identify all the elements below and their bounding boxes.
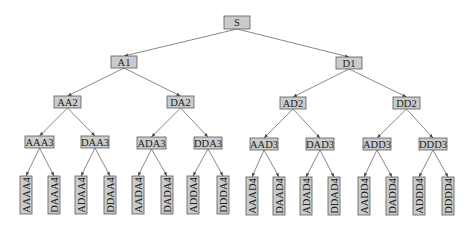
tree-node-s: S [224, 16, 250, 29]
arrowhead-icon [252, 173, 255, 177]
tree-node-dd2: DD2 [393, 97, 420, 109]
edge-aaa3-daaa4 [40, 148, 55, 176]
node-label: ADDA4 [188, 176, 199, 212]
tree-node-da2: DA2 [167, 96, 194, 108]
tree-node-aad3: AAD3 [250, 138, 278, 150]
node-label: DD2 [396, 98, 416, 109]
edge-s-d1 [237, 29, 349, 57]
tree-node-dad3: DAD3 [306, 138, 334, 150]
node-label: DAD3 [306, 139, 334, 150]
arrowhead-icon [389, 173, 392, 177]
tree-node-dda3: DDA3 [194, 137, 222, 149]
edge-dad3-adad4 [306, 150, 320, 177]
tree-node-add3: ADD3 [363, 138, 391, 150]
node-label: AADD4 [359, 177, 370, 213]
tree-node-ddad4: DDAD4 [328, 177, 340, 215]
tree-node-aadd4: AADD4 [358, 177, 370, 215]
node-label: DDAA4 [105, 176, 116, 212]
edge-add3-dadd4 [377, 150, 392, 177]
node-label: AA2 [57, 97, 77, 108]
tree-edges [26, 29, 448, 177]
arrowhead-icon [220, 172, 223, 176]
tree-node-ddaa4: DDAA4 [104, 176, 116, 214]
node-label: DADD4 [387, 177, 398, 213]
node-label: DDDD4 [443, 177, 454, 213]
edge-ad2-aad3 [264, 109, 293, 138]
tree-node-aa2: AA2 [54, 96, 81, 108]
arrowhead-icon [107, 172, 110, 176]
arrowhead-icon [193, 172, 196, 176]
tree-node-addd4: ADDD4 [413, 177, 425, 215]
arrowhead-icon [445, 173, 448, 177]
edge-daa3-adaa4 [81, 148, 95, 176]
tree-node-adaa4: ADAA4 [75, 176, 87, 214]
node-label: AADA4 [133, 176, 144, 212]
arrowhead-icon [164, 172, 167, 176]
edge-s-a1 [124, 29, 237, 56]
edge-ddd3-dddd4 [433, 150, 448, 177]
tree-node-dddd4: DDDD4 [442, 177, 454, 215]
edge-d1-ad2 [293, 69, 349, 97]
tree-node-aada4: AADA4 [132, 176, 144, 214]
tree-diagram: SA1D1AA2DA2AD2DD2AAA3DAA3ADA3DDA3AAD3DAD… [0, 0, 468, 236]
edge-dda3-ddda4 [208, 149, 223, 176]
node-label: AAAA4 [21, 176, 32, 212]
tree-node-ddda4: DDDA4 [217, 176, 229, 214]
arrowhead-icon [26, 172, 29, 176]
node-label: ADAA4 [76, 176, 87, 212]
edge-ada3-dada4 [152, 149, 168, 176]
node-label: DAAD4 [274, 177, 285, 213]
edge-a1-aa2 [68, 68, 125, 96]
node-label: AAA3 [26, 137, 54, 148]
tree-node-daaa4: DAAA4 [48, 176, 60, 214]
arrowhead-icon [419, 173, 422, 177]
tree-node-aaaa4: AAAA4 [20, 176, 32, 214]
arrowhead-icon [364, 173, 367, 177]
node-label: AD2 [283, 98, 303, 109]
node-label: A1 [118, 57, 131, 68]
edge-aa2-daa3 [68, 108, 96, 136]
edge-ddd3-addd4 [419, 150, 433, 177]
tree-node-ada3: ADA3 [137, 137, 166, 149]
tree-node-aaad4: AAAD4 [246, 177, 258, 215]
arrowhead-icon [306, 173, 309, 177]
node-label: ADDD4 [414, 177, 425, 213]
tree-node-dada4: DADA4 [161, 176, 173, 214]
edge-dda3-adda4 [193, 149, 208, 176]
node-label: DDA3 [194, 138, 222, 149]
node-label: S [234, 17, 240, 28]
edge-ada3-aada4 [138, 149, 152, 176]
node-label: DA2 [170, 97, 190, 108]
node-label: DDAD4 [329, 177, 340, 213]
tree-nodes: SA1D1AA2DA2AD2DD2AAA3DAA3ADA3DDA3AAD3DAD… [20, 16, 454, 215]
node-label: ADAD4 [301, 177, 312, 213]
tree-node-ddd3: DDD3 [419, 138, 447, 150]
tree-node-adda4: ADDA4 [187, 176, 199, 214]
arrowhead-icon [51, 172, 54, 176]
edge-dd2-ddd3 [407, 109, 434, 138]
edge-aad3-aaad4 [252, 150, 264, 177]
tree-node-d1: D1 [336, 57, 362, 69]
node-label: AAAD4 [247, 177, 258, 213]
tree-node-aaa3: AAA3 [25, 136, 54, 148]
edge-aa2-aaa3 [40, 108, 68, 136]
arrowhead-icon [81, 172, 84, 176]
edge-dad3-ddad4 [320, 150, 334, 177]
tree-node-ad2: AD2 [280, 97, 306, 109]
tree-node-daad4: DAAD4 [273, 177, 285, 215]
arrowhead-icon [138, 172, 141, 176]
tree-node-daa3: DAA3 [81, 136, 109, 148]
tree-node-a1: A1 [111, 56, 137, 68]
node-label: DADA4 [162, 176, 173, 212]
edge-d1-dd2 [349, 69, 407, 97]
node-label: AAD3 [250, 139, 278, 150]
arrowhead-icon [276, 173, 279, 177]
node-label: D1 [343, 58, 356, 69]
edge-aad3-daad4 [264, 150, 279, 177]
edge-ad2-dad3 [293, 109, 320, 138]
tree-node-dadd4: DADD4 [386, 177, 398, 215]
edge-add3-aadd4 [364, 150, 377, 177]
edge-dd2-add3 [377, 109, 407, 138]
edge-aaa3-aaaa4 [26, 148, 40, 176]
edge-daa3-ddaa4 [95, 148, 110, 176]
